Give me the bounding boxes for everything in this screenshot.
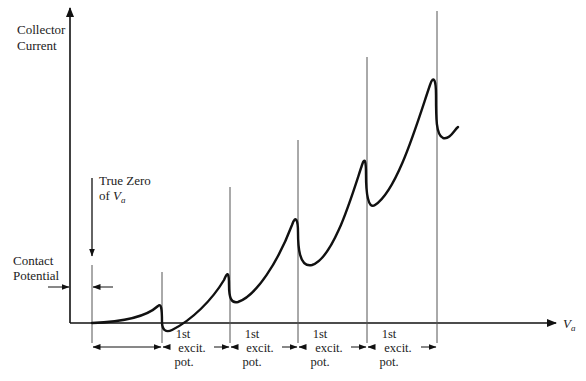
y-axis-label: Collector — [17, 22, 66, 37]
svg-text:excit.: excit. — [315, 341, 342, 355]
contact-potential-label-2: Potential — [13, 268, 60, 283]
true-zero-label-2: of Va — [99, 188, 126, 205]
collector-current-curve — [92, 79, 458, 331]
interval-label-4: 1st excit. pot. — [379, 327, 411, 369]
svg-text:pot.: pot. — [379, 355, 398, 369]
interval-label-2: 1st excit. pot. — [242, 327, 273, 369]
svg-text:excit.: excit. — [246, 341, 273, 355]
svg-text:excit.: excit. — [384, 341, 411, 355]
svg-text:1st: 1st — [313, 327, 328, 341]
svg-text:pot.: pot. — [174, 355, 193, 369]
svg-text:excit.: excit. — [178, 341, 205, 355]
svg-text:1st: 1st — [176, 327, 191, 341]
contact-potential-label: Contact — [13, 253, 54, 268]
svg-text:1st: 1st — [382, 327, 397, 341]
y-axis-label-2: Current — [17, 38, 57, 53]
svg-text:pot.: pot. — [310, 355, 329, 369]
interval-label-1: 1st excit. pot. — [174, 327, 205, 369]
interval-label-3: 1st excit. pot. — [310, 327, 342, 369]
svg-text:1st: 1st — [245, 327, 260, 341]
x-axis-label: Va — [563, 316, 576, 333]
svg-text:pot.: pot. — [242, 355, 261, 369]
franck-hertz-diagram: Collector Current True Zero of Va Contac… — [0, 0, 586, 381]
true-zero-label: True Zero — [99, 173, 151, 188]
